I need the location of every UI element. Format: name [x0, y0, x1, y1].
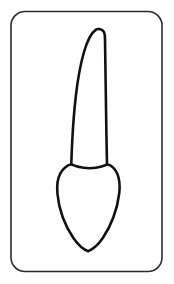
tooth-illustration-svg — [0, 0, 174, 284]
figure-canvas — [0, 0, 174, 284]
